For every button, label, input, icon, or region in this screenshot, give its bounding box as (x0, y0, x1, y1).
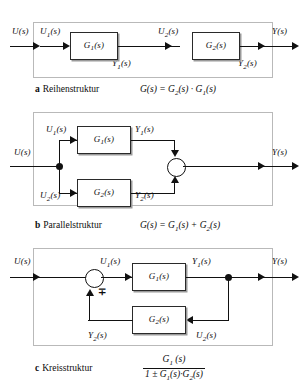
diagram-c-block-g1: G1(s) (132, 263, 186, 291)
diagram-b-line-g1-out (131, 140, 175, 141)
diagram-a-input-label: U(s) (12, 26, 29, 36)
diagram-a-u1-label: U1(s) (40, 26, 61, 39)
diagram-b-line-split-down (59, 166, 60, 194)
diagram-c-block-g2: G2(s) (132, 306, 186, 334)
diagram-b-arrow-to-g1 (70, 136, 77, 144)
diagram-b-arrow-sum-top (171, 150, 179, 157)
diagram-c-line-g1-node (186, 277, 296, 278)
diagram-c-arrow-to-g2 (186, 316, 193, 324)
diagram-b-formula: G(s) = G1(s) + G2(s) (140, 220, 220, 233)
figure-block-structures: U(s) U1(s) U2(s) Y(s) Y1(s) Y2(s) G1(s) … (0, 0, 306, 391)
diagram-c-line-in (10, 277, 86, 278)
diagram-b-arrow-mid-out (258, 162, 265, 170)
diagram-a-tag: a (35, 84, 40, 94)
diagram-a-arrow-to-g1 (63, 42, 70, 50)
diagram-b-output-label: Y(s) (272, 147, 287, 157)
diagram-a-output-label: Y(s) (272, 26, 287, 36)
diagram-b-u2-label: U2(s) (40, 190, 61, 203)
diagram-b-tag: b (35, 220, 40, 230)
diagram-b-caption-text: Parallelstruktur (43, 220, 102, 230)
diagram-b-line-out (183, 166, 296, 167)
diagram-b-arrow-out (292, 162, 299, 170)
diagram-c-line-fb-to-g2 (190, 320, 229, 321)
diagram-b-block-g2: G2(s) (77, 179, 131, 207)
diagram-c-output-label: Y(s) (272, 256, 287, 266)
diagram-c-formula-numerator: G1 (s) (143, 354, 205, 368)
diagram-a-u2-label: U2(s) (158, 26, 179, 39)
diagram-c-line-g2-left (88, 320, 133, 321)
diagram-c-arrow-out (292, 273, 299, 281)
diagram-c-y1-label: Y1(s) (192, 256, 211, 269)
diagram-c-u2-label: U2(s) (196, 330, 217, 343)
diagram-c-caption: cKreisstruktur (35, 363, 92, 373)
diagram-a-line-out (240, 46, 296, 47)
diagram-b-line-split-up (59, 140, 60, 167)
diagram-a-arrow-to-g2 (165, 42, 172, 50)
diagram-b-arrow-sum-bottom (171, 176, 179, 183)
diagram-b-y1-label: Y1(s) (135, 124, 154, 137)
diagram-a-arrow-out (292, 42, 299, 50)
diagram-a-caption-text: Reihenstruktur (43, 84, 99, 94)
diagram-b-caption: bParallelstruktur (35, 220, 102, 230)
diagram-c-input-label: U(s) (14, 256, 31, 266)
diagram-b-summing-junction (167, 158, 186, 177)
diagram-b-line-in (10, 166, 62, 167)
diagram-c-formula-denominator: 1 ± G1(s)·G2(s) (143, 368, 205, 383)
diagram-a-caption: aReihenstruktur (35, 84, 99, 94)
diagram-a-arrow-mid-out (258, 42, 265, 50)
diagram-b-y2-label: Y2(s) (135, 190, 154, 203)
diagram-b-arrow-to-g2 (70, 189, 77, 197)
diagram-a-formula: G(s) = G2(s) · G1(s) (140, 84, 216, 97)
diagram-a-y2-label: Y2(s) (238, 58, 257, 71)
diagram-b-input-label: U(s) (14, 147, 31, 157)
diagram-c-tag: c (35, 363, 39, 373)
diagram-c-u1-label: U1(s) (100, 256, 121, 269)
diagram-c-formula-fraction: G1 (s) 1 ± G1(s)·G2(s) (143, 354, 205, 382)
diagram-b-line-g2-out (131, 193, 175, 194)
diagram-c-arrow-in (33, 273, 40, 281)
diagram-c-arrow-to-sum (86, 289, 94, 296)
diagram-c-line-fb-up (89, 295, 90, 321)
diagram-a-arrow-in (33, 42, 40, 50)
diagram-c-caption-text: Kreisstruktur (42, 363, 92, 373)
diagram-c-line-node-down (228, 277, 229, 321)
diagram-b-block-g1: G1(s) (77, 126, 131, 154)
diagram-c-y2-label: Y2(s) (88, 330, 107, 343)
diagram-a-block-g1: G1(s) (70, 32, 118, 60)
diagram-c-sign-label: ∓ (98, 286, 106, 297)
diagram-a-block-g2: G2(s) (192, 32, 240, 60)
diagram-c-arrow-mid-out (258, 273, 265, 281)
diagram-c-arrow-to-g1 (125, 273, 132, 281)
diagram-b-u1-label: U1(s) (46, 124, 67, 137)
